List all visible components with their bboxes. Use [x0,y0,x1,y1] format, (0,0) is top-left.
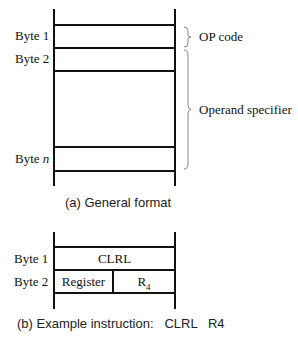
caption-b: (b) Example instruction: CLRL R4 [17,316,225,331]
operand-specifier-label: Operand specifier [199,102,292,118]
byte-1-label: Byte 1 [14,251,48,267]
byte-1-label: Byte 1 [15,28,49,44]
left-border [53,9,55,186]
byte-2-label: Byte 2 [14,274,48,290]
operand-brace-icon [183,49,193,170]
row-divider [53,24,176,26]
row-divider [53,146,176,148]
op-code-brace-icon [183,26,193,48]
mode-cell-register: Register [55,274,112,290]
right-border [174,9,176,186]
row-divider [53,292,176,294]
op-code-label: OP code [199,29,243,45]
caption-a: (a) General format [65,195,171,210]
row-divider [53,170,176,172]
opcode-cell-clrl: CLRL [55,251,174,267]
row-divider [53,246,176,248]
row-divider [53,47,176,49]
byte-n-label: Byte n [15,151,49,167]
register-cell-r4: R4 [114,274,174,292]
byte-2-label: Byte 2 [15,51,49,67]
row-divider [53,269,176,271]
row-divider [53,70,176,72]
